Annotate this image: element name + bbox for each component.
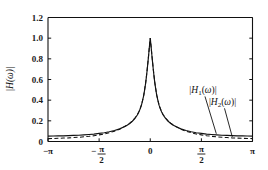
data-series-group bbox=[48, 38, 253, 138]
x-tick-label: π bbox=[250, 146, 255, 156]
y-tick-label: 0.8 bbox=[32, 54, 44, 64]
axes-frame bbox=[48, 18, 253, 142]
curve-h1-solid bbox=[48, 38, 253, 136]
y-axis-title: |H(ω)| bbox=[5, 66, 16, 91]
annotation-label-h1: |H1(ω)| bbox=[189, 85, 216, 97]
x-tick-label-sign: − bbox=[91, 146, 96, 156]
x-tick-label-numerator: π bbox=[199, 144, 204, 154]
magnitude-response-chart: 00.20.40.60.81.01.2 −π−π20π2π |H(ω)| |H1… bbox=[0, 0, 268, 170]
x-tick-label: 0 bbox=[148, 146, 153, 156]
x-tick-label-denominator: 2 bbox=[99, 155, 104, 165]
y-tick-label: 1.0 bbox=[32, 33, 44, 43]
x-tick-label-denominator: 2 bbox=[199, 155, 204, 165]
y-tick-label: 0.4 bbox=[32, 95, 44, 105]
y-axis-tick-labels: 00.20.40.60.81.01.2 bbox=[32, 13, 44, 147]
figure-container: 00.20.40.60.81.01.2 −π−π20π2π |H(ω)| |H1… bbox=[0, 0, 268, 170]
annotation-h2: |H2(ω)| bbox=[209, 97, 236, 137]
curve-h2-dashed bbox=[48, 38, 253, 138]
y-tick-label: 0.2 bbox=[32, 116, 44, 126]
x-axis-tick-labels: −π−π20π2π bbox=[43, 144, 255, 165]
y-axis-ticks bbox=[48, 18, 253, 142]
annotation-label-h2: |H2(ω)| bbox=[209, 97, 236, 109]
y-tick-label: 0.6 bbox=[32, 75, 44, 85]
x-tick-label-numerator: π bbox=[99, 144, 104, 154]
y-tick-label: 1.2 bbox=[32, 13, 44, 23]
annotation-h1: |H1(ω)| bbox=[189, 85, 216, 134]
x-tick-label: −π bbox=[43, 146, 53, 156]
annotation-leader-line-h2 bbox=[225, 108, 233, 137]
